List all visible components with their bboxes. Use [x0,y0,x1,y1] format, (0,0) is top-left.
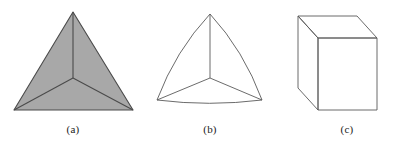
panel-caption-a: (a) [49,124,97,135]
panel-a-shape [14,12,133,110]
panel-c-shape [298,16,377,110]
curved-triangle-b-outline [157,14,262,103]
panel-b-shape [157,14,262,103]
panel-caption-b: (b) [186,124,234,135]
cube-c-front-face [318,38,377,110]
figure-container: (a) (b) (c) [0,0,401,148]
cube-c-left-face [298,16,318,110]
cube-c-top-face [298,16,377,38]
panel-caption-c: (c) [323,124,371,135]
